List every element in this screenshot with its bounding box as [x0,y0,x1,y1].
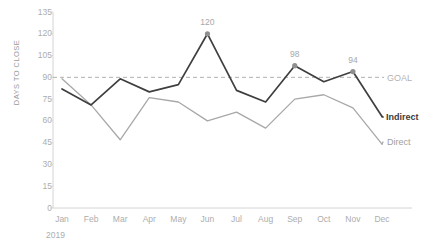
x-axis-tick-labels: JanFebMarAprMayJunJulAugSepOctNovDec [0,0,427,249]
x-tick-label: Dec [362,215,402,224]
legend-label-indirect: Indirect [386,113,419,122]
x-axis-year-label: 2019 [46,230,65,240]
data-point-label: 98 [275,50,315,59]
data-point-label: 120 [187,18,227,27]
legend-label-direct: Direct [387,138,411,147]
legend-label-goal: GOAL [387,74,412,83]
data-point-label: 94 [333,56,373,65]
days-to-close-line-chart: DAYS TO CLOSE 0153045607590105120135 Jan… [0,0,427,249]
